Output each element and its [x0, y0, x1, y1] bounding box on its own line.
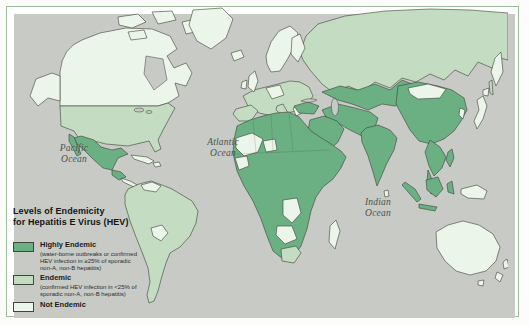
region-tasmania	[478, 280, 484, 286]
legend-desc-endemic: (confirmed HEV infection in <25% of spor…	[40, 284, 142, 298]
legend-label-not-endemic: Not Endemic	[40, 301, 86, 309]
region-alaska	[30, 73, 60, 106]
ocean-label-atlantic: Atlantic Ocean	[196, 137, 250, 159]
region-hispaniola	[153, 162, 161, 167]
region-philippines	[446, 149, 454, 167]
scanned-map-figure: Pacific Ocean Atlantic Ocean Indian Ocea…	[0, 0, 529, 325]
region-iceland	[231, 50, 244, 61]
region-canada	[60, 28, 192, 106]
region-arctic-island-4	[128, 30, 147, 40]
region-guatemala	[112, 170, 126, 180]
legend-label-endemic: Endemic	[40, 274, 142, 282]
legend-swatch-highly-endemic	[13, 242, 34, 252]
region-cuba	[131, 155, 154, 164]
region-south-africa	[281, 246, 301, 263]
ocean-label-indian-line2: Ocean	[351, 208, 405, 219]
legend-swatch-not-endemic	[13, 302, 34, 312]
region-australia	[436, 221, 500, 275]
ocean-label-indian: Indian Ocean	[351, 197, 405, 219]
region-borneo	[426, 177, 443, 197]
region-ireland	[241, 80, 247, 89]
legend-title-line2: for Hepatitis E Virus (HEV)	[13, 217, 153, 228]
ocean-label-atlantic-line2: Ocean	[196, 148, 250, 159]
ocean-label-pacific-line1: Pacific	[44, 143, 104, 154]
region-new-zealand-south	[495, 272, 503, 282]
region-sri-lanka	[384, 190, 389, 197]
legend-desc-highly-endemic: (water-borne outbreaks or confirmed HEV …	[40, 251, 142, 272]
region-japan-hokkaido	[483, 88, 489, 96]
caspian-sea	[331, 98, 338, 116]
legend-swatch-endemic	[13, 275, 34, 285]
region-greenland	[189, 8, 233, 49]
legend-title: Levels of Endemicity for Hepatitis E Vir…	[13, 206, 153, 228]
great-lakes-east	[146, 111, 152, 114]
ocean-label-indian-line1: Indian	[351, 197, 405, 208]
region-java	[419, 204, 437, 211]
region-arctic-island-1	[118, 14, 146, 28]
region-sakhalin	[489, 80, 493, 95]
ocean-label-atlantic-line1: Atlantic	[196, 137, 250, 148]
legend-label-highly-endemic: Highly Endemic	[40, 241, 142, 249]
region-new-zealand-north	[503, 259, 509, 269]
legend: Levels of Endemicity for Hepatitis E Vir…	[13, 206, 153, 318]
ocean-label-pacific: Pacific Ocean	[44, 143, 104, 165]
legend-item-not-endemic: Not Endemic	[13, 301, 86, 312]
legend-item-endemic: Endemic (confirmed HEV infection in <25%…	[13, 274, 142, 298]
region-india	[361, 125, 397, 186]
great-lakes	[134, 108, 144, 112]
region-japan	[474, 96, 487, 129]
region-sulawesi	[447, 181, 454, 194]
ocean-label-pacific-line2: Ocean	[44, 154, 104, 165]
legend-title-line1: Levels of Endemicity	[13, 206, 153, 217]
region-new-guinea	[461, 185, 487, 199]
region-madagascar	[329, 220, 340, 249]
region-uk	[248, 71, 258, 92]
legend-item-highly-endemic: Highly Endemic (water-borne outbreaks or…	[13, 241, 142, 271]
region-arctic-island-2	[152, 11, 176, 24]
